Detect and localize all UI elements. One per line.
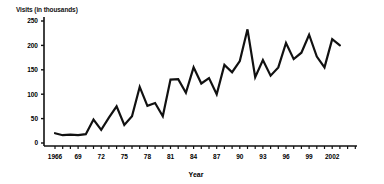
y-tick-label: 50 bbox=[31, 115, 39, 122]
y-axis: 050100150200250 bbox=[27, 17, 44, 146]
x-tick-label: 1966 bbox=[48, 153, 63, 160]
line-chart: Visits (in thousands) 050100150200250 19… bbox=[0, 0, 384, 184]
x-tick-label: 93 bbox=[259, 153, 267, 160]
x-tick-label: 99 bbox=[305, 153, 313, 160]
x-tick-label: 2002 bbox=[325, 153, 340, 160]
x-tick-label: 96 bbox=[282, 153, 290, 160]
visits-line bbox=[55, 29, 340, 135]
x-tick-label: 90 bbox=[236, 153, 244, 160]
x-tick-label: 69 bbox=[74, 153, 82, 160]
x-tick-label: 87 bbox=[213, 153, 221, 160]
y-tick-label: 200 bbox=[27, 42, 38, 49]
x-tick-label: 75 bbox=[121, 153, 129, 160]
y-tick-label: 100 bbox=[27, 91, 38, 98]
y-tick-label: 250 bbox=[27, 17, 38, 24]
plot-area: 050100150200250 196669727578818487909396… bbox=[0, 0, 384, 184]
x-tick-label: 78 bbox=[144, 153, 152, 160]
y-tick-label: 0 bbox=[34, 139, 38, 146]
y-tick-label: 150 bbox=[27, 66, 38, 73]
y-axis-title: Visits (in thousands) bbox=[16, 6, 78, 13]
x-axis: 196669727578818487909396992002 bbox=[44, 146, 357, 160]
x-axis-title: Year bbox=[189, 171, 204, 178]
x-tick-label: 81 bbox=[167, 153, 175, 160]
x-tick-label: 72 bbox=[98, 153, 106, 160]
x-tick-label: 84 bbox=[190, 153, 198, 160]
